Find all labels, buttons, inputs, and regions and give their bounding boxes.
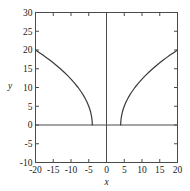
- x-tick-labels: -20-15-10-505101520: [29, 165, 182, 175]
- y-tick-label: 20: [23, 45, 33, 55]
- x-axis-title: x: [103, 177, 109, 187]
- y-tick-labels: -10-5051015202530: [20, 8, 33, 168]
- y-tick-label: 25: [23, 27, 33, 37]
- y-tick-label: 0: [28, 120, 33, 130]
- x-tick-label: 15: [155, 165, 165, 175]
- y-tick-label: 30: [23, 8, 33, 18]
- y-tick-label: -5: [25, 139, 33, 149]
- y-tick-label: -10: [20, 158, 33, 168]
- x-tick-label: -15: [47, 165, 60, 175]
- y-tick-label: 5: [28, 102, 33, 112]
- plot-canvas: -20-15-10-505101520 -10-5051015202530 x …: [0, 0, 190, 191]
- x-tick-label: 10: [137, 165, 147, 175]
- x-tick-label: -10: [65, 165, 78, 175]
- x-tick-label: 0: [104, 165, 109, 175]
- x-tick-label: 20: [173, 165, 183, 175]
- y-tick-label: 10: [23, 83, 33, 93]
- y-axis-title: y: [7, 81, 13, 91]
- x-tick-label: 5: [122, 165, 127, 175]
- y-tick-label: 15: [23, 64, 33, 74]
- x-tick-label: -5: [85, 165, 93, 175]
- data-curve-left-branch: [36, 50, 93, 125]
- data-curve-right-branch: [121, 50, 178, 125]
- chart-figure: -20-15-10-505101520 -10-5051015202530 x …: [0, 0, 190, 191]
